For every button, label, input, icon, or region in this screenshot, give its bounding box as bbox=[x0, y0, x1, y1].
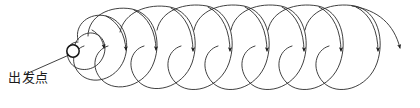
spiral-loop-8-arrow bbox=[319, 7, 341, 51]
spiral-loops-group bbox=[67, 5, 400, 90]
spiral-loop-2 bbox=[74, 15, 127, 80]
spiral-loop-6-arrow bbox=[245, 7, 267, 51]
start-point-label: 出发点 bbox=[8, 70, 49, 85]
spiral-loop-3-arrow bbox=[134, 10, 156, 50]
start-point-circle bbox=[67, 45, 79, 57]
spiral-path-illustration bbox=[0, 0, 420, 108]
spiral-loop-4-arrow bbox=[171, 8, 193, 51]
spiral-exit-arrow bbox=[352, 6, 400, 48]
spiral-loop-7-arrow bbox=[282, 7, 304, 51]
spiral-loop-5-arrow bbox=[208, 7, 230, 51]
spiral-diagram-figure: 出发点 bbox=[0, 0, 420, 108]
